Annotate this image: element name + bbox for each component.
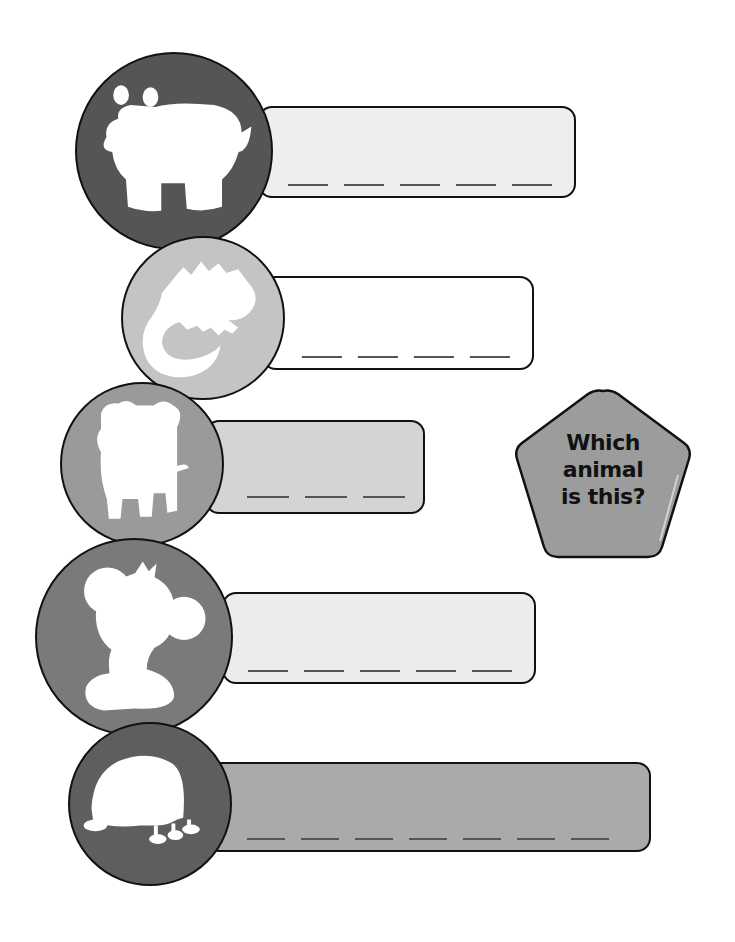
answer-bar-2[interactable]	[262, 276, 534, 370]
question-badge: Which animal is this?	[510, 385, 696, 565]
pig-silhouette-icon	[62, 384, 222, 544]
animal-circle-2	[121, 236, 285, 400]
animal-circle-3	[60, 382, 224, 546]
animal-circle-5	[68, 722, 232, 886]
animal-circle-1	[75, 52, 273, 250]
question-line-1: Which	[510, 429, 696, 456]
answer-bar-4[interactable]	[222, 592, 536, 684]
answer-bar-3[interactable]	[205, 420, 425, 514]
turtle-silhouette-icon	[70, 724, 230, 884]
letter-blanks-1	[288, 184, 552, 186]
question-text: Which animal is this?	[510, 429, 696, 510]
monkey-silhouette-icon	[37, 540, 231, 734]
letter-blanks-5	[247, 838, 609, 840]
answer-bar-5[interactable]	[205, 762, 651, 852]
question-line-3: is this?	[510, 483, 696, 510]
answer-bar-1[interactable]	[258, 106, 576, 198]
hippo-silhouette-icon	[77, 54, 271, 248]
question-line-2: animal	[510, 456, 696, 483]
letter-blanks-3	[247, 496, 405, 498]
animal-circle-4	[35, 538, 233, 736]
letter-blanks-2	[302, 356, 510, 358]
lizard-silhouette-icon	[123, 238, 283, 398]
letter-blanks-4	[248, 670, 512, 672]
